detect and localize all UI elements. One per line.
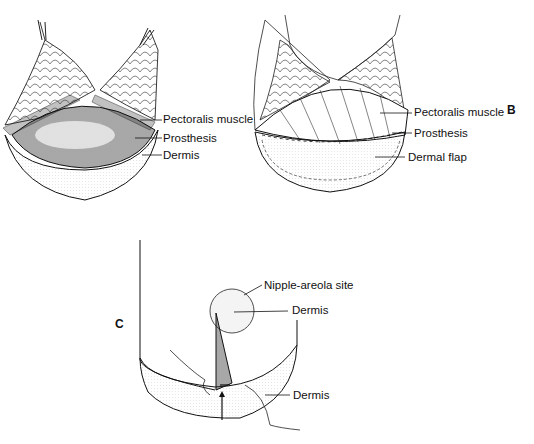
label-pectoralis-muscle-a: Pectoralis muscle bbox=[163, 114, 253, 126]
panel-letter-b: B bbox=[507, 103, 516, 117]
panel-c-drawing bbox=[140, 240, 300, 430]
label-dermis-a: Dermis bbox=[163, 150, 199, 162]
panel-a-drawing bbox=[3, 20, 162, 200]
label-prosthesis-b: Prosthesis bbox=[414, 128, 468, 140]
label-dermis-c-lower: Dermis bbox=[293, 390, 329, 402]
panel-letter-c: C bbox=[115, 317, 124, 331]
illustration-drawing bbox=[0, 0, 534, 444]
panel-b-drawing bbox=[254, 15, 412, 192]
surgical-illustration-figure: Pectoralis muscle Prosthesis Dermis Pect… bbox=[0, 0, 534, 444]
label-nipple-areola-site: Nipple-areola site bbox=[264, 280, 354, 292]
label-pectoralis-muscle-b: Pectoralis muscle bbox=[414, 107, 504, 119]
label-dermis-c-upper: Dermis bbox=[292, 305, 328, 317]
label-dermal-flap-b: Dermal flap bbox=[408, 152, 467, 164]
label-prosthesis-a: Prosthesis bbox=[163, 133, 217, 145]
